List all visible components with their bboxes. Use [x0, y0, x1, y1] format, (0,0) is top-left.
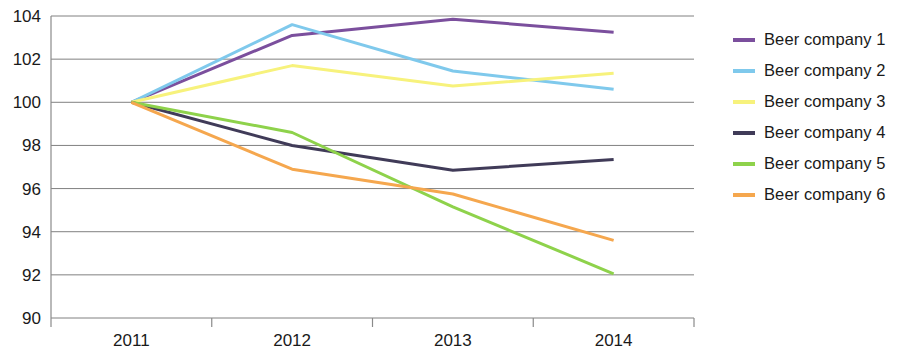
- legend-item[interactable]: Beer company 6: [733, 179, 898, 210]
- legend-color-swatch-icon: [733, 69, 755, 73]
- y-axis-tick-label: 98: [22, 136, 41, 155]
- y-axis-tick-label: 92: [22, 266, 41, 285]
- legend-item-label: Beer company 2: [764, 61, 886, 80]
- legend-item[interactable]: Beer company 5: [733, 148, 898, 179]
- y-axis-tick-labels: 1041021009896949290: [13, 7, 41, 328]
- legend-color-swatch-icon: [733, 162, 755, 166]
- chart-plot-area: 1041021009896949290 2011201220132014: [0, 0, 720, 352]
- chart-legend: Beer company 1Beer company 2Beer company…: [733, 24, 898, 210]
- legend-color-swatch-icon: [733, 38, 755, 42]
- legend-item-label: Beer company 5: [764, 154, 886, 173]
- y-axis-tick-label: 94: [22, 223, 41, 242]
- series-line: [131, 19, 613, 102]
- legend-item[interactable]: Beer company 4: [733, 117, 898, 148]
- legend-color-swatch-icon: [733, 131, 755, 135]
- x-axis-ticks: [51, 318, 694, 327]
- series-line: [131, 102, 613, 170]
- x-axis-tick-label: 2011: [113, 331, 150, 350]
- y-axis-tick-label: 100: [13, 93, 41, 112]
- data-series-group: [131, 19, 613, 274]
- legend-item-label: Beer company 6: [764, 185, 886, 204]
- legend-item-label: Beer company 3: [764, 92, 886, 111]
- legend-item-label: Beer company 1: [764, 30, 886, 49]
- y-axis-tick-label: 90: [22, 309, 41, 328]
- legend-color-swatch-icon: [733, 193, 755, 197]
- chart-page: 1041021009896949290 2011201220132014 Bee…: [0, 0, 898, 352]
- y-axis-gridlines: [51, 16, 694, 318]
- legend-item[interactable]: Beer company 2: [733, 55, 898, 86]
- line-chart: 1041021009896949290 2011201220132014: [0, 0, 720, 352]
- x-axis-tick-labels: 2011201220132014: [113, 331, 632, 350]
- series-line: [131, 102, 613, 273]
- y-axis-tick-label: 104: [13, 7, 41, 26]
- legend-item[interactable]: Beer company 3: [733, 86, 898, 117]
- series-line: [131, 25, 613, 103]
- y-axis-tick-label: 96: [22, 180, 41, 199]
- legend-item-label: Beer company 4: [764, 123, 886, 142]
- x-axis-tick-label: 2013: [434, 331, 472, 350]
- x-axis-tick-label: 2012: [273, 331, 311, 350]
- legend-color-swatch-icon: [733, 100, 755, 104]
- y-axis-tick-label: 102: [13, 50, 41, 69]
- legend-item[interactable]: Beer company 1: [733, 24, 898, 55]
- x-axis-tick-label: 2014: [595, 331, 633, 350]
